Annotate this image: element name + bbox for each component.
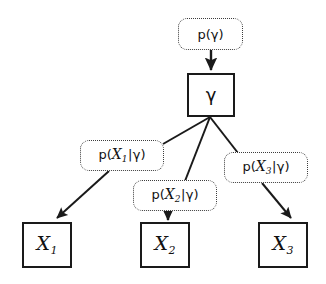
factor-node-prior[interactable]: p(γ) <box>178 18 243 50</box>
factor-node-cond2[interactable]: p(X2|γ) <box>133 180 217 211</box>
factor-node-cond3[interactable]: p(X3|γ) <box>224 152 308 183</box>
variable-node-x3[interactable]: X3 <box>258 222 308 268</box>
variable-label-gamma: γ <box>206 86 217 104</box>
factor-label-cond2: p(X2|γ) <box>151 187 198 204</box>
factor-label-prior: p(γ) <box>197 28 223 41</box>
variable-label-x1: X1 <box>36 234 57 256</box>
edge-cond1-to-x1 <box>57 171 109 218</box>
factor-label-cond3: p(X3|γ) <box>242 159 289 176</box>
factor-label-cond1: p(X1|γ) <box>98 147 145 164</box>
edge-cond3-to-x3 <box>262 183 291 218</box>
factor-node-cond1[interactable]: p(X1|γ) <box>80 140 164 171</box>
variable-label-x2: X2 <box>154 234 175 256</box>
variable-label-x3: X3 <box>272 234 293 256</box>
edge-gamma-to-cond1 <box>163 117 210 144</box>
variable-node-x1[interactable]: X1 <box>22 222 72 268</box>
graphical-model-diagram: p(γ) γ p(X1|γ) p(X2|γ) p(X3|γ) X1 X2 X3 <box>0 0 326 284</box>
variable-node-gamma[interactable]: γ <box>187 73 235 117</box>
edge-gamma-to-cond2 <box>185 117 210 181</box>
edge-gamma-to-cond3 <box>210 117 238 153</box>
variable-node-x2[interactable]: X2 <box>140 222 190 268</box>
